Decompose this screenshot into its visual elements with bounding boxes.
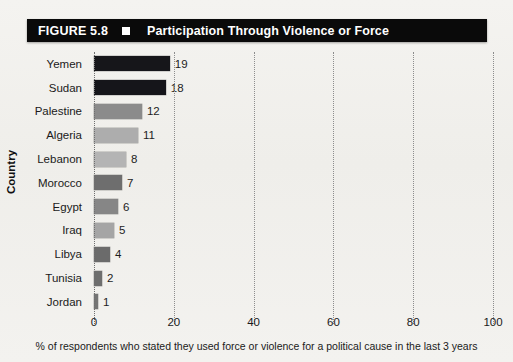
bar-value-label: 11 [143, 129, 155, 141]
bar-value-label: 19 [175, 58, 188, 70]
gridline-0 [94, 52, 95, 324]
bar-row: 11 [94, 123, 493, 147]
bar-row: 6 [94, 195, 493, 219]
x-tick-label-40: 40 [247, 316, 260, 328]
y-axis-label-egypt: Egypt [0, 195, 88, 219]
bar-tunisia [94, 271, 102, 286]
y-axis-label-jordan: Jordan [0, 290, 88, 314]
y-axis-label-palestine: Palestine [0, 100, 88, 124]
bar-algeria [94, 128, 138, 143]
bar-row: 12 [94, 100, 493, 124]
bar-value-label: 5 [119, 224, 125, 236]
x-axis-caption: % of respondents who stated they used fo… [0, 340, 513, 352]
bar-row: 1 [94, 290, 493, 314]
y-axis-label-yemen: Yemen [0, 52, 88, 76]
bar-value-label: 8 [131, 153, 137, 165]
y-axis-label-libya: Libya [0, 242, 88, 266]
y-axis-label-morocco: Morocco [0, 171, 88, 195]
bar-row: 4 [94, 242, 493, 266]
bar-value-label: 12 [147, 105, 160, 117]
y-axis-labels: YemenSudanPalestineAlgeriaLebanonMorocco… [0, 52, 88, 314]
gridline-20 [174, 52, 175, 324]
y-axis-label-tunisia: Tunisia [0, 266, 88, 290]
bar-value-label: 18 [171, 82, 184, 94]
bar-row: 7 [94, 171, 493, 195]
gridline-60 [333, 52, 334, 324]
x-tick-label-100: 100 [483, 316, 502, 328]
x-tick-label-20: 20 [167, 316, 180, 328]
bar-chart: Country YemenSudanPalestineAlgeriaLebano… [0, 48, 513, 362]
y-axis-label-algeria: Algeria [0, 123, 88, 147]
x-tick-label-80: 80 [407, 316, 420, 328]
bar-iraq [94, 223, 114, 238]
bar-palestine [94, 104, 142, 119]
gridline-80 [413, 52, 414, 324]
bar-value-label: 4 [115, 248, 121, 260]
x-axis-ticks: 020406080100 [94, 316, 493, 334]
gridline-40 [254, 52, 255, 324]
bar-row: 2 [94, 266, 493, 290]
gridline-100 [493, 52, 494, 324]
bar-lebanon [94, 152, 126, 167]
figure-title: Participation Through Violence or Force [147, 24, 389, 38]
y-axis-label-sudan: Sudan [0, 76, 88, 100]
bar-egypt [94, 199, 118, 214]
bar-yemen [94, 56, 170, 71]
bar-morocco [94, 175, 122, 190]
bar-row: 18 [94, 76, 493, 100]
x-tick-label-0: 0 [91, 316, 97, 328]
y-axis-label-iraq: Iraq [0, 219, 88, 243]
plot-area: 191812118765421 [94, 52, 493, 314]
y-axis-label-lebanon: Lebanon [0, 147, 88, 171]
bar-series: 191812118765421 [94, 52, 493, 314]
bar-row: 5 [94, 219, 493, 243]
bar-row: 8 [94, 147, 493, 171]
bar-sudan [94, 80, 166, 95]
bar-value-label: 7 [127, 177, 133, 189]
figure-number: FIGURE 5.8 [38, 24, 108, 38]
bar-row: 19 [94, 52, 493, 76]
bar-value-label: 1 [103, 296, 109, 308]
bar-value-label: 6 [123, 201, 129, 213]
bar-value-label: 2 [107, 272, 113, 284]
x-tick-label-60: 60 [327, 316, 340, 328]
bar-libya [94, 247, 110, 262]
white-square-icon [122, 27, 130, 35]
figure-title-bar: FIGURE 5.8 Participation Through Violenc… [27, 19, 487, 42]
